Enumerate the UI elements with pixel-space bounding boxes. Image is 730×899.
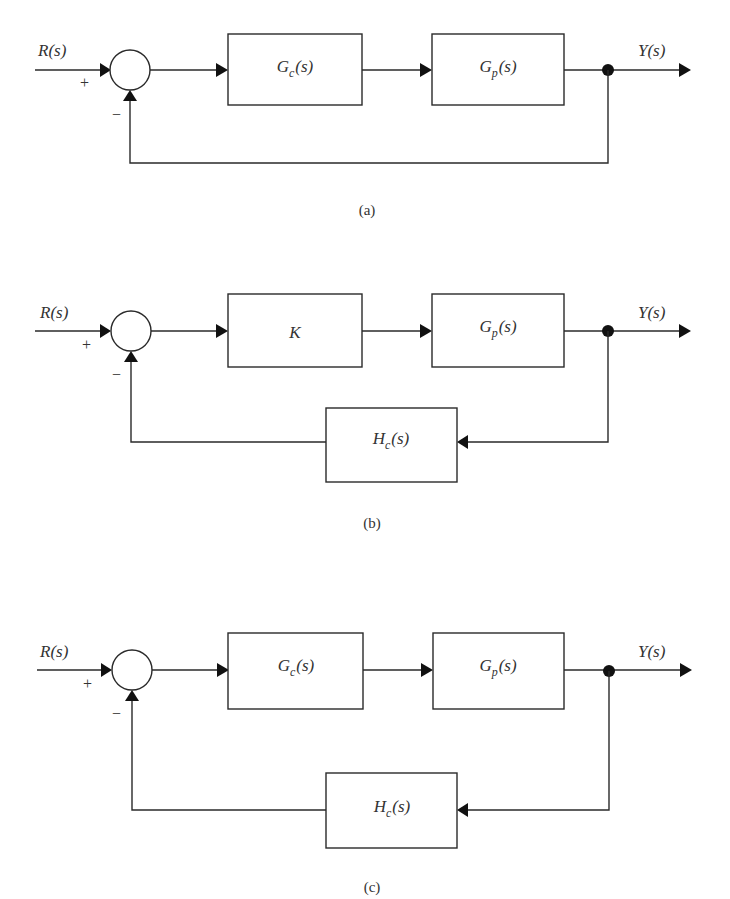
arrow-icon xyxy=(457,435,468,449)
caption-a: (a) xyxy=(359,202,376,219)
input-label: R(s) xyxy=(39,642,69,661)
input-label: R(s) xyxy=(37,41,67,60)
minus-sign: − xyxy=(112,366,121,383)
diagram-c: R(s) + − Gc(s) Gp(s) Y(s) Hc(s) (c) xyxy=(37,633,692,896)
minus-sign: − xyxy=(112,705,121,722)
arrow-icon xyxy=(216,324,228,338)
arrow-icon xyxy=(125,690,139,701)
summing-junction xyxy=(111,311,151,351)
summing-junction xyxy=(110,50,150,90)
arrow-icon xyxy=(421,663,433,677)
feedback-path xyxy=(132,696,326,810)
caption-b: (b) xyxy=(363,515,381,532)
feedback-path xyxy=(131,357,326,442)
summing-junction xyxy=(112,650,152,690)
block-diagram-figure: R(s) + − Gc(s) Gp(s) Y(s) (a) R(s) + xyxy=(0,0,730,899)
arrow-icon xyxy=(101,663,112,677)
caption-c: (c) xyxy=(364,879,381,896)
arrow-icon xyxy=(679,324,691,338)
input-label: R(s) xyxy=(39,303,69,322)
gain-block-label: K xyxy=(288,323,302,342)
arrow-icon xyxy=(124,351,138,362)
arrow-icon xyxy=(217,663,229,677)
output-label: Y(s) xyxy=(638,303,666,322)
plus-sign: + xyxy=(83,675,92,692)
arrow-icon xyxy=(420,63,432,77)
minus-sign: − xyxy=(112,106,121,123)
arrow-icon xyxy=(123,90,137,101)
arrow-icon xyxy=(680,663,692,677)
arrow-icon xyxy=(216,63,228,77)
diagram-a: R(s) + − Gc(s) Gp(s) Y(s) (a) xyxy=(35,34,691,219)
arrow-icon xyxy=(457,803,468,817)
arrow-icon xyxy=(420,324,432,338)
arrow-icon xyxy=(679,63,691,77)
diagram-b: R(s) + − K Gp(s) Y(s) Hc(s) (b) xyxy=(35,294,691,532)
arrow-icon xyxy=(100,324,111,338)
output-label: Y(s) xyxy=(638,41,666,60)
output-label: Y(s) xyxy=(638,642,666,661)
plus-sign: + xyxy=(82,336,91,353)
plus-sign: + xyxy=(80,74,89,91)
